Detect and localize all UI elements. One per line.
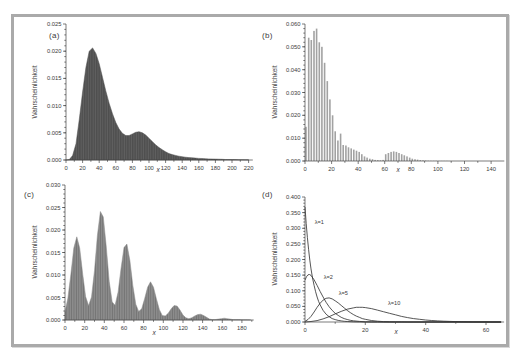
histogram-area (65, 212, 251, 321)
histogram-bars (305, 29, 448, 161)
bar (393, 151, 395, 161)
y-tick-label: 0.010 (47, 103, 62, 109)
x-tick-label: 20 (81, 325, 87, 331)
y-tick-label: 0.015 (47, 75, 62, 81)
y-tick-label: 0.020 (46, 227, 61, 233)
x-tick-label: 40 (101, 325, 107, 331)
series-line-λ=5 (305, 298, 501, 322)
x-tick-label: 140 (177, 165, 187, 171)
line-series-group (305, 207, 501, 322)
x-tick-label: 120 (178, 325, 188, 331)
x-tick-label: 100 (433, 166, 443, 172)
bar (361, 154, 363, 161)
bar (401, 154, 403, 161)
y-axis-label: Wahrscheinlichkeit (31, 65, 38, 118)
bar (311, 40, 313, 161)
histogram-area (66, 48, 249, 160)
x-axis-label: x (155, 166, 160, 173)
bar (313, 31, 315, 161)
x-tick-label: 80 (129, 165, 135, 171)
bar (321, 47, 323, 161)
x-tick-label: 40 (355, 166, 361, 172)
bar (342, 145, 344, 161)
x-tick-label: 0 (303, 327, 306, 333)
x-tick-label: 120 (161, 165, 171, 171)
y-tick-label: 0.000 (46, 317, 61, 323)
bar (396, 152, 398, 161)
y-axis-label: Wahrscheinlichkeit (31, 225, 38, 278)
y-tick-label: 0.030 (286, 90, 301, 96)
x-tick-label: 200 (227, 165, 237, 171)
panel-b-chart: 0204060801001201400.0000.0100.0200.0300.… (261, 14, 511, 178)
y-tick-label: 0.060 (286, 21, 301, 27)
x-axis-label: x (395, 166, 400, 173)
x-tick-label: 20 (79, 165, 85, 171)
bar (406, 156, 408, 161)
x-tick-label: 80 (408, 166, 414, 172)
y-axis-label: Wahrscheinlichkeit (271, 232, 278, 285)
y-tick-label: 0.025 (46, 205, 61, 211)
x-axis-label: x (393, 328, 398, 335)
x-tick-label: 180 (237, 325, 247, 331)
series-annotation: λ=5 (339, 290, 348, 296)
y-tick-label: 0.350 (286, 210, 301, 216)
axes (302, 197, 504, 325)
y-tick-label: 0.015 (46, 250, 61, 256)
x-tick-label: 60 (121, 325, 127, 331)
y-tick-label: 0.100 (286, 288, 301, 294)
bar (390, 152, 392, 161)
x-tick-label: 180 (211, 165, 221, 171)
y-axis-label: Wahrscheinlichkeit (271, 65, 278, 118)
x-tick-label: 60 (113, 165, 119, 171)
y-tick-label: 0.020 (286, 112, 301, 118)
y-tick-label: 0.010 (46, 272, 61, 278)
x-tick-label: 20 (328, 166, 334, 172)
series-line-λ=2 (305, 275, 501, 323)
bar (398, 153, 400, 161)
y-tick-label: 0.250 (286, 241, 301, 247)
x-tick-label: 0 (303, 166, 306, 172)
y-tick-label: 0.000 (286, 158, 301, 164)
bar (332, 115, 334, 161)
bar (350, 148, 352, 161)
y-tick-label: 0.005 (47, 130, 62, 136)
x-tick-label: 20 (362, 327, 368, 333)
bar (409, 158, 411, 161)
series-line-λ=10 (305, 307, 501, 322)
x-tick-label: 140 (486, 166, 496, 172)
y-tick-label: 0.025 (47, 21, 62, 27)
x-tick-label: 220 (244, 165, 254, 171)
bar (348, 147, 350, 161)
y-tick-label: 0.030 (46, 182, 61, 188)
bar (385, 154, 387, 161)
bar (366, 158, 368, 161)
bar (353, 150, 355, 161)
bar (305, 127, 307, 161)
x-tick-label: 100 (144, 165, 154, 171)
x-tick-label: 60 (381, 166, 387, 172)
y-tick-label: 0.000 (286, 319, 301, 325)
histogram-bars (66, 48, 249, 160)
bar (356, 151, 358, 161)
y-tick-label: 0.000 (47, 157, 62, 163)
bar (388, 153, 390, 161)
bar (327, 81, 329, 161)
panel-c-chart: 0204060801001201401601800.0000.0050.0100… (12, 178, 262, 354)
series-annotation: λ=2 (324, 274, 333, 280)
bar (329, 99, 331, 161)
bar (319, 42, 321, 161)
x-axis-label: x (151, 329, 156, 336)
y-tick-label: 0.005 (46, 295, 61, 301)
series-annotation: λ=10 (388, 300, 400, 306)
bar (316, 29, 318, 161)
bar (358, 152, 360, 161)
y-tick-label: 0.300 (286, 225, 301, 231)
bar (340, 134, 342, 161)
x-tick-label: 60 (483, 327, 489, 333)
y-tick-label: 0.400 (286, 194, 301, 200)
y-tick-label: 0.010 (286, 135, 301, 141)
bar (324, 63, 326, 161)
bar (404, 155, 406, 161)
x-tick-label: 0 (63, 325, 66, 331)
series-annotation: λ=1 (315, 219, 324, 225)
